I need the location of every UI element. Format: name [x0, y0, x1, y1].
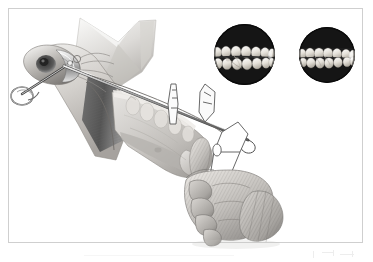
artifact-tick: [352, 251, 353, 257]
artifact-tick: [333, 250, 334, 256]
figure-root: Intraoral approach to the mandible with …: [0, 0, 373, 262]
artifact-line: [84, 255, 234, 256]
artifact-tick: [313, 251, 314, 258]
margin-artifacts: [0, 244, 373, 262]
intraoral-photo-upper-and-lower-arch: [214, 24, 275, 85]
intraoral-photo-single-arch: [299, 27, 355, 83]
